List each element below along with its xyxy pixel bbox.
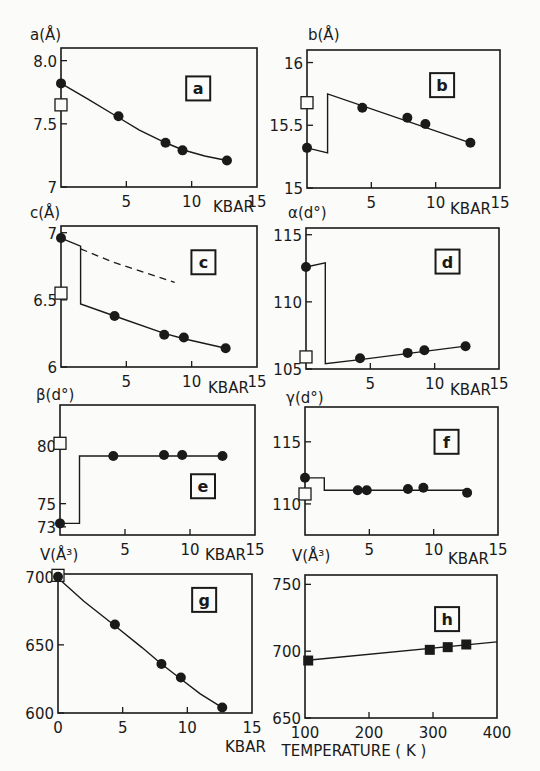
panel-label: e [198,477,209,496]
y-tick-label: 80 [37,438,56,456]
panel-f: 51015115110γ(d°)KBARf [272,389,507,568]
data-point [462,488,472,498]
data-point-square [461,639,471,649]
data-point [177,450,187,460]
data-point [55,518,65,528]
data-point [355,353,365,363]
y-tick-label: 7 [47,179,57,197]
x-axis-label: KBAR [448,550,489,568]
data-point [357,103,367,113]
data-point [176,673,186,683]
panel-label: f [443,433,451,452]
x-tick-label: 10 [426,194,445,212]
panel-h: 100200300400750700650V(Å³)TEMPERATURE ( … [272,546,511,760]
y-tick-label: 73 [37,519,56,537]
x-tick-label: 5 [122,373,132,391]
panel-label: h [441,610,452,629]
data-point [402,113,412,123]
data-point [403,348,413,358]
panel-label: c [199,253,208,272]
x-tick-label: 5 [366,375,376,393]
x-tick-label: 5 [120,541,130,559]
panel-label: d [442,253,453,272]
data-point [353,485,363,495]
data-point [302,143,312,153]
data-point [178,145,188,155]
x-axis-label: KBAR [208,379,249,397]
data-point [403,484,413,494]
panel-label: b [436,76,447,95]
y-tick-label: 700 [272,643,301,661]
data-point [362,485,372,495]
data-point [161,138,171,148]
data-point [300,473,310,483]
data-point [159,330,169,340]
data-point-square [443,642,453,652]
x-tick-label: 5 [118,719,128,737]
panel-b: 510151615.515b(Å)KBARb [270,25,510,218]
x-tick-label: 10 [425,375,444,393]
data-point [217,703,227,713]
y-tick-label: 15 [284,180,303,198]
x-axis-label: KBAR [205,546,246,564]
data-point [56,233,66,243]
y-tick-label: 115 [273,227,302,245]
open-square-marker [301,97,313,109]
y-tick-label: 600 [25,705,54,723]
x-tick-label: 10 [182,193,201,211]
y-tick-label: 750 [272,576,301,594]
x-tick-label: 5 [122,193,132,211]
data-point [218,451,228,461]
y-tick-label: 105 [273,361,302,379]
data-point [53,572,63,582]
open-square-marker [299,488,311,500]
x-tick-label: 15 [488,541,507,559]
open-square-marker [54,437,66,449]
data-point [113,111,123,121]
y-axis-label: γ(d°) [286,389,324,407]
data-point [420,119,430,129]
y-tick-label: 7 [47,225,57,243]
y-tick-label: 650 [272,710,301,728]
x-tick-label: 400 [483,724,512,742]
y-axis-label: α(d°) [288,204,327,222]
x-tick-label: 10 [178,719,197,737]
data-point [301,262,311,272]
dashed-curve [81,249,175,283]
data-point [418,483,428,493]
x-tick-label: 15 [490,194,509,212]
fit-curve [305,478,467,490]
data-point [222,155,232,165]
y-tick-label: 7.5 [33,116,57,134]
y-tick-label: 6 [47,359,57,377]
y-tick-label: 6.5 [33,292,57,310]
y-axis-label: a(Å) [30,25,61,44]
y-tick-label: 16 [284,55,303,73]
data-point [108,451,118,461]
y-axis-label: b(Å) [308,25,340,44]
x-axis-label: TEMPERATURE ( K ) [281,742,427,760]
panel-e: 51015807573β(d°)KBARe [36,386,265,564]
panel-a: 510158.07.57a(Å)KBARa [30,25,267,216]
y-tick-label: 15.5 [270,117,303,135]
y-axis-label: V(Å³) [292,546,330,565]
data-point [461,341,471,351]
panel-label: a [193,79,204,98]
x-tick-label: 200 [355,724,384,742]
y-tick-label: 650 [25,637,54,655]
data-point [221,343,231,353]
x-tick-label: 15 [242,719,261,737]
x-tick-label: 10 [180,541,199,559]
panel-c: 5101576.56c(Å)KBARc [30,203,267,397]
x-tick-label: 10 [182,373,201,391]
data-point [156,659,166,669]
plot-frame [58,574,252,713]
y-tick-label: 110 [273,294,302,312]
data-point [465,138,475,148]
y-axis-label: V(Å³) [40,545,78,564]
panel-g: 051015700650600V(Å³)KBARg [25,545,265,756]
y-tick-label: 75 [37,496,56,514]
x-axis-label: KBAR [450,381,491,399]
x-axis-label: KBAR [213,198,254,216]
x-tick-label: 15 [247,373,266,391]
